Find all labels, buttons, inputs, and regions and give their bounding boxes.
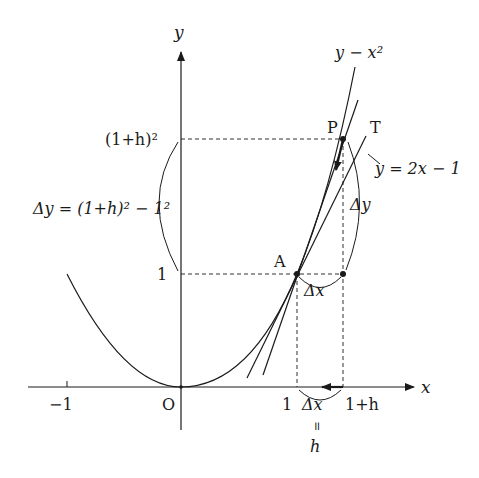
tangent-line bbox=[247, 136, 366, 378]
point-a-label: A bbox=[273, 252, 286, 271]
x-tick-minus-one: −1 bbox=[49, 395, 73, 414]
delta-x-bottom-label: Δx bbox=[301, 395, 323, 414]
h-label: h bbox=[310, 437, 320, 456]
origin-label: O bbox=[162, 395, 175, 414]
approach-arrow bbox=[336, 139, 343, 170]
point-p-label: P bbox=[327, 118, 338, 137]
tangent-equation-label: y = 2x − 1 bbox=[374, 159, 461, 178]
tangent-point-label: T bbox=[370, 118, 381, 137]
point-origin bbox=[179, 385, 183, 389]
point-p bbox=[340, 136, 346, 142]
y-tick-one-plus-h-squared: (1+h)² bbox=[105, 130, 158, 149]
delta-y-label: Δy bbox=[349, 195, 372, 214]
delta-y-full-label: Δy = (1+h)² − 1² bbox=[32, 199, 170, 218]
y-axis-label: y bbox=[173, 22, 184, 42]
parabola-label: y − x² bbox=[334, 43, 383, 62]
point-a bbox=[294, 271, 300, 277]
delta-x-top-label: Δx bbox=[303, 281, 325, 300]
equals-vertical: ॥ bbox=[313, 419, 320, 433]
x-axis-label: x bbox=[421, 377, 431, 397]
x-tick-one-plus-h: 1+h bbox=[345, 395, 379, 414]
point-corner bbox=[340, 271, 346, 277]
y-tick-one: 1 bbox=[157, 265, 167, 284]
x-tick-one: 1 bbox=[282, 395, 292, 414]
derivative-diagram: y x O −1 1 1+h 1 (1+h)² y − x² y = 2x − … bbox=[0, 0, 479, 478]
parabola-curve bbox=[67, 67, 355, 387]
